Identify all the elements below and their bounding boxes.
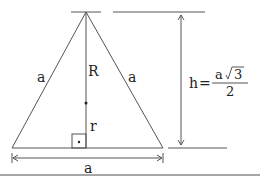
side-left-label: a: [37, 69, 45, 85]
formula-numerator-root: 3: [234, 67, 242, 82]
formula-equals: =: [199, 75, 211, 91]
inradius-label: r: [90, 118, 97, 134]
right-angle-dot: [78, 141, 80, 143]
triangle-side-right: [86, 12, 163, 148]
side-right-label: a: [128, 69, 136, 85]
formula-denominator: 2: [226, 84, 234, 99]
formula-lhs: h: [189, 75, 198, 91]
circumradius-label: R: [88, 63, 99, 79]
triangle-diagram: a a R r a h = a 3 2: [0, 0, 260, 177]
center-point: [85, 102, 88, 105]
base-label: a: [84, 160, 92, 176]
triangle-side-left: [12, 12, 86, 148]
formula-numerator-var: a: [215, 67, 223, 82]
